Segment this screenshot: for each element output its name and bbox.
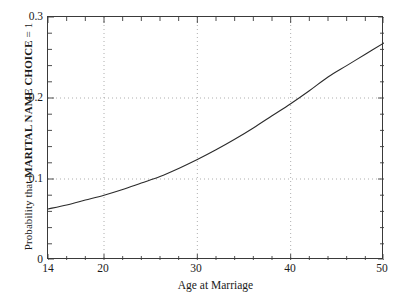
x-tick-label-20: 20 [83, 262, 123, 275]
y-axis-title: Probability that MARITAL NAME CHOICE = 1 [22, 13, 35, 261]
x-tick-label-30: 30 [176, 262, 216, 275]
x-axis-title: Age at Marriage [47, 278, 384, 292]
x-tick-label-50: 50 [362, 262, 400, 275]
plot-area [47, 16, 383, 259]
y-axis-title-prefix: Probability that [22, 178, 34, 251]
y-axis-title-suffix: = 1 [22, 23, 34, 41]
x-tick-label-40: 40 [270, 262, 310, 275]
y-tick-label-0.3: 0.3 [3, 10, 43, 22]
grid-lines [48, 17, 384, 260]
plot-canvas [48, 17, 384, 260]
data-line-predicted-probability [48, 43, 384, 209]
x-tick-label-14: 14 [28, 262, 68, 275]
y-axis-title-variable: MARITAL NAME CHOICE [22, 40, 34, 177]
chart-figure: Probability that MARITAL NAME CHOICE = 1… [0, 0, 400, 300]
axis-ticks [48, 17, 384, 260]
y-tick-label-0.2: 0.2 [3, 91, 43, 103]
y-tick-label-0.1: 0.1 [3, 172, 43, 184]
